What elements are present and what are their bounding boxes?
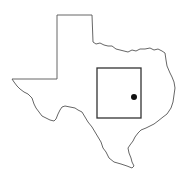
location-marker-icon bbox=[131, 94, 137, 100]
texas-outline bbox=[12, 15, 175, 168]
texas-map bbox=[0, 0, 187, 182]
region-box bbox=[97, 68, 141, 118]
